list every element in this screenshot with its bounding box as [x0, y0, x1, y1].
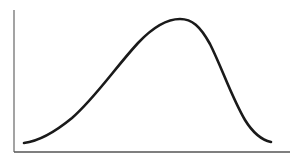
- chart: [0, 0, 290, 156]
- chart-svg: [0, 0, 290, 156]
- distribution-curve: [24, 19, 271, 143]
